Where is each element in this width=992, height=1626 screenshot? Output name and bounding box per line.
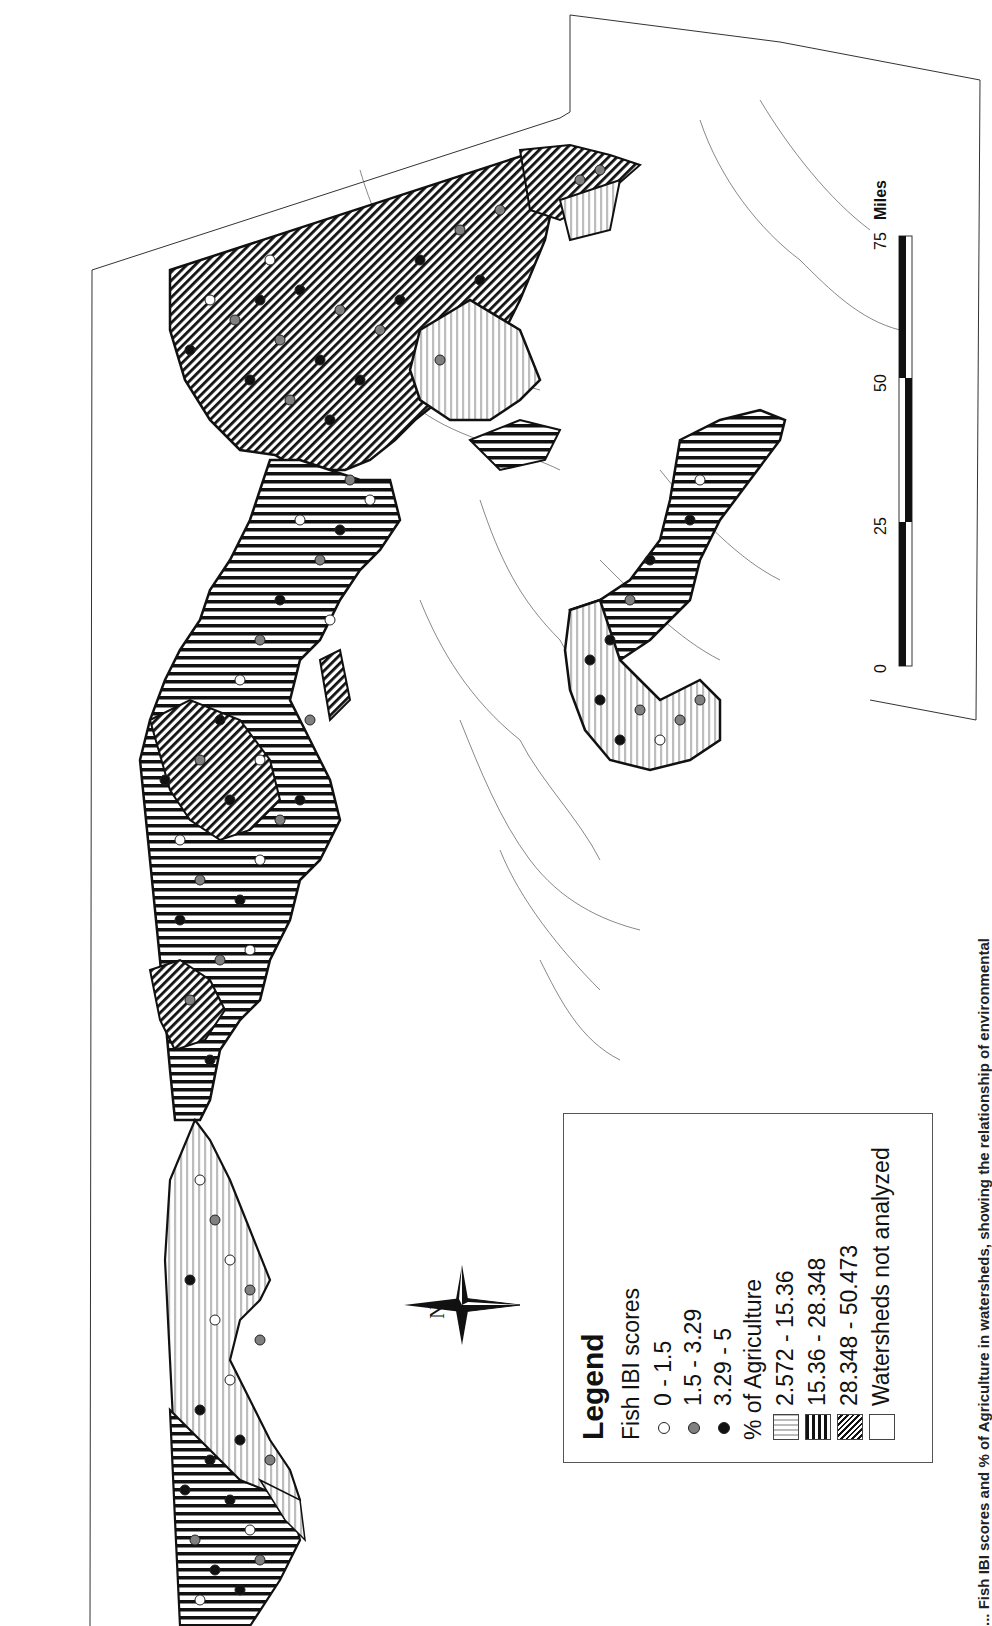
region-western-maryland bbox=[165, 1120, 305, 1626]
scale-tick-25: 25 bbox=[872, 517, 890, 535]
legend-ibi-mid: 1.5 - 3.29 bbox=[680, 1309, 707, 1440]
scale-tick-50: 50 bbox=[872, 374, 890, 392]
legend-ag-mid: 15.36 - 28.348 bbox=[804, 1258, 831, 1440]
scale-tick-0: 0 bbox=[872, 664, 890, 673]
black-dot-icon bbox=[718, 1422, 730, 1434]
region-central-maryland bbox=[140, 460, 400, 1120]
diagonal-hatch-swatch-icon bbox=[837, 1414, 863, 1440]
light-hatch-swatch-icon bbox=[773, 1414, 799, 1440]
legend-ag-low: 2.572 - 15.36 bbox=[772, 1270, 799, 1440]
vertical-lines-swatch-icon bbox=[805, 1414, 831, 1440]
figure-caption: ... Fish IBI scores and % of Agriculture… bbox=[975, 938, 992, 1626]
legend-ibi-high: 3.29 - 5 bbox=[710, 1328, 737, 1440]
legend-ag-high: 28.348 - 50.473 bbox=[836, 1245, 863, 1440]
north-label: N bbox=[426, 1304, 449, 1318]
legend: Legend Fish IBI scores 0 - 1.5 1.5 - 3.2… bbox=[563, 1113, 933, 1463]
scale-bar bbox=[899, 236, 912, 666]
legend-not-analyzed: Watersheds not analyzed bbox=[868, 1147, 895, 1440]
gray-dot-icon bbox=[688, 1422, 700, 1434]
region-eastern-shore-south bbox=[565, 410, 785, 770]
empty-swatch-icon bbox=[869, 1414, 895, 1440]
ag-heading: % of Agriculture bbox=[740, 1279, 767, 1440]
ibi-heading: Fish IBI scores bbox=[618, 1288, 645, 1440]
white-dot-icon bbox=[658, 1422, 670, 1434]
scale-unit: Miles bbox=[872, 180, 890, 220]
legend-ibi-low: 0 - 1.5 bbox=[650, 1341, 677, 1440]
legend-title: Legend bbox=[576, 1333, 610, 1440]
region-eastern-shore-north bbox=[170, 145, 640, 470]
scale-tick-75: 75 bbox=[872, 232, 890, 250]
north-arrow-icon bbox=[404, 1265, 520, 1345]
